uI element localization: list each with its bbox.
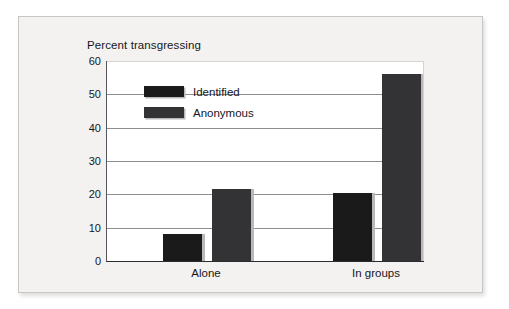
bar-in-groups-anonymous [382, 74, 421, 261]
gridline-60 [107, 61, 424, 62]
y-tick-label-60: 60 [89, 55, 101, 67]
gridline-40 [107, 128, 424, 129]
chart-title: Percent transgressing [87, 39, 201, 51]
chart-legend: IdentifiedAnonymous [144, 83, 254, 125]
gridline-30 [107, 161, 424, 162]
legend-item-anonymous: Anonymous [144, 104, 254, 121]
x-tick-label-alone: Alone [191, 267, 220, 279]
legend-label-anonymous: Anonymous [193, 107, 254, 119]
legend-label-identified: Identified [193, 86, 240, 98]
gridline-10 [107, 228, 424, 229]
chart-panel: Percent transgressing 0102030405060 Alon… [18, 16, 483, 293]
y-tick-label-40: 40 [89, 122, 101, 134]
y-tick-label-20: 20 [89, 188, 101, 200]
y-tick-label-50: 50 [89, 88, 101, 100]
y-tick-label-10: 10 [89, 222, 101, 234]
bar-alone-identified [163, 234, 202, 261]
legend-swatch-anonymous [144, 107, 184, 118]
y-tick-label-30: 30 [89, 155, 101, 167]
bar-alone-anonymous [212, 189, 251, 261]
legend-swatch-identified [144, 86, 184, 97]
x-tick-label-in-groups: In groups [352, 267, 400, 279]
y-tick-label-0: 0 [95, 255, 101, 267]
gridline-20 [107, 194, 424, 195]
figure-root: Percent transgressing 0102030405060 Alon… [0, 0, 509, 309]
legend-item-identified: Identified [144, 83, 254, 100]
bar-in-groups-identified [333, 193, 372, 261]
y-axis-tick-labels: 0102030405060 [71, 61, 101, 261]
